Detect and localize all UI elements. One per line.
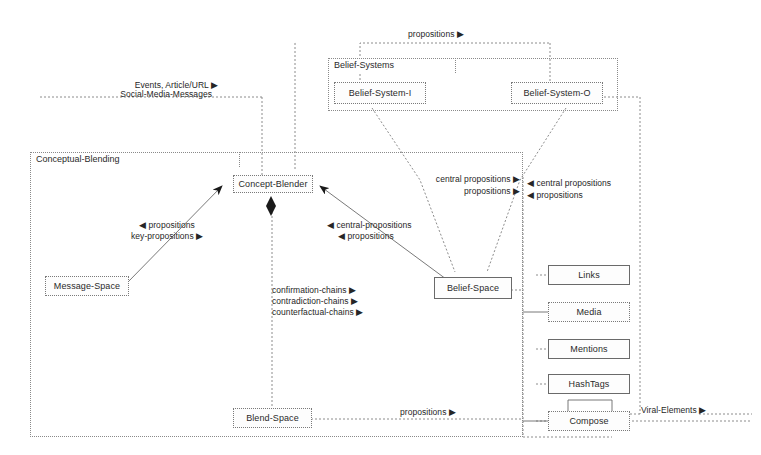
node-links[interactable]: Links bbox=[548, 265, 630, 285]
edge-label-central-propositions-in: ◀ central-propositions bbox=[327, 220, 447, 231]
node-belief-space[interactable]: Belief-Space bbox=[434, 277, 512, 299]
package-belief-systems-label: Belief-Systems bbox=[328, 58, 456, 73]
edge-label-central-propositions-out: central propositions ▶ bbox=[410, 174, 520, 185]
edge-label-viral-elements: Viral-Elements ▶ bbox=[641, 405, 761, 416]
node-belief-system-o[interactable]: Belief-System-O bbox=[511, 82, 603, 104]
node-hashtags[interactable]: HashTags bbox=[548, 374, 630, 394]
edge-label-propositions-right: ◀ propositions bbox=[527, 190, 647, 201]
edge-label-propositions-in-2: ◀ propositions bbox=[338, 231, 448, 242]
edge-label-social-media-messages: Social-Media-Messages bbox=[80, 89, 212, 100]
edge-label-propositions-out: propositions ▶ bbox=[410, 186, 520, 197]
node-belief-system-i[interactable]: Belief-System-I bbox=[334, 82, 426, 104]
edge-label-blend-propositions: propositions ▶ bbox=[400, 407, 510, 418]
edge-label-contradiction-chains: contradiction-chains ▶ bbox=[272, 296, 392, 307]
edge-label-confirmation-chains: confirmation-chains ▶ bbox=[272, 285, 392, 296]
edge-label-key-propositions: key-propositions ▶ bbox=[131, 231, 241, 242]
edge-label-propositions-in: ◀ propositions bbox=[139, 220, 239, 231]
edge-label-top-propositions: propositions ▶ bbox=[381, 29, 491, 40]
package-conceptual-blending-label: Conceptual-Blending bbox=[30, 152, 240, 167]
node-mentions[interactable]: Mentions bbox=[548, 339, 630, 359]
edge-label-central-propositions-right: ◀ central propositions bbox=[527, 178, 657, 189]
node-blend-space[interactable]: Blend-Space bbox=[233, 408, 312, 428]
node-media[interactable]: Media bbox=[548, 302, 630, 322]
edge-label-counterfactual-chains: counterfactual-chains ▶ bbox=[272, 307, 397, 318]
node-message-space[interactable]: Message-Space bbox=[45, 276, 129, 296]
diagram-canvas: Conceptual-Blending Belief-Systems Belie… bbox=[0, 0, 761, 455]
node-concept-blender[interactable]: Concept-Blender bbox=[233, 175, 313, 193]
node-compose[interactable]: Compose bbox=[548, 411, 630, 431]
